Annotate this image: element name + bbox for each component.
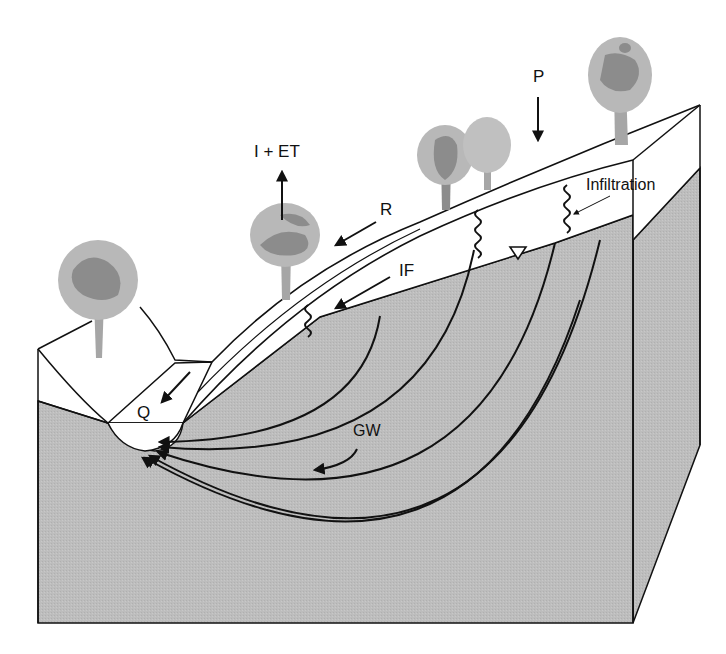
- tree-icon: [58, 240, 138, 358]
- infiltration-label: Infiltration: [586, 176, 655, 193]
- precipitation-group: P: [533, 67, 544, 140]
- streamflow-label: Q: [137, 403, 150, 422]
- tree-icon: [463, 117, 511, 190]
- runoff-arrow: [336, 222, 376, 245]
- et-label: I + ET: [254, 142, 300, 161]
- tree-icon: [588, 37, 652, 145]
- runoff-label: R: [380, 200, 392, 219]
- interflow-label: IF: [399, 261, 414, 280]
- groundwater-label: GW: [353, 422, 381, 439]
- precipitation-label: P: [533, 67, 544, 86]
- hillslope-hydrology-diagram: P I + ET R IF Infiltration GW Q: [0, 0, 726, 654]
- block-side-face: [633, 168, 700, 623]
